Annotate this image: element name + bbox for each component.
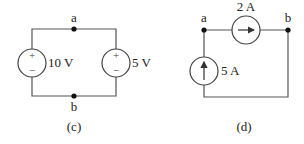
node-a-dot	[201, 27, 206, 32]
voltage-source-5v: + −	[102, 49, 130, 77]
minus-sign: −	[113, 64, 119, 76]
node-label-a: a	[201, 10, 207, 25]
node-label-b: b	[285, 10, 292, 25]
node-b-dot	[71, 93, 76, 98]
caption-c: (c)	[67, 119, 81, 134]
circuit-c: + − 10 V + − 5 V a b (c)	[18, 10, 152, 134]
current-source-5a	[190, 57, 218, 85]
circuit-diagrams: + − 10 V + − 5 V a b (c) 2 A 5 A a	[0, 0, 304, 144]
source-label-2a: 2 A	[237, 0, 256, 14]
plus-sign: +	[113, 49, 119, 61]
node-label-a: a	[71, 10, 77, 25]
caption-d: (d)	[236, 119, 251, 134]
minus-sign: −	[29, 64, 35, 76]
voltage-source-10v: + −	[18, 49, 46, 77]
plus-sign: +	[29, 49, 35, 61]
source-label-5a: 5 A	[221, 63, 240, 78]
current-source-2a	[232, 16, 260, 44]
source-label-5v: 5 V	[132, 55, 152, 70]
node-label-b: b	[71, 99, 78, 114]
node-b-dot	[285, 27, 290, 32]
circuit-d: 2 A 5 A a b (d)	[190, 0, 291, 134]
source-label-10v: 10 V	[48, 55, 74, 70]
node-a-dot	[71, 26, 76, 31]
